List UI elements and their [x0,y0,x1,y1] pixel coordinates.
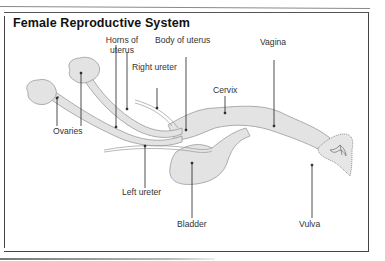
label-horns-of-uterus: Horns of uterus [102,35,142,55]
label-ovaries: Ovaries [53,126,83,136]
label-horns-line1: Horns of [102,35,142,45]
right-ureter-shape-2 [135,103,172,126]
uterus-vagina-shape [168,106,330,150]
label-left-ureter: Left ureter [122,187,161,197]
label-vulva: Vulva [299,219,320,229]
label-cervix: Cervix [213,85,237,95]
label-bladder: Bladder [177,219,207,229]
label-right-ureter: Right ureter [132,62,177,72]
label-body-of-uterus: Body of uterus [155,35,210,45]
lower-ovary-shape [27,79,57,104]
upper-ovary-shape [69,57,100,83]
label-horns-line2: uterus [102,45,142,55]
label-vagina: Vagina [260,37,286,47]
